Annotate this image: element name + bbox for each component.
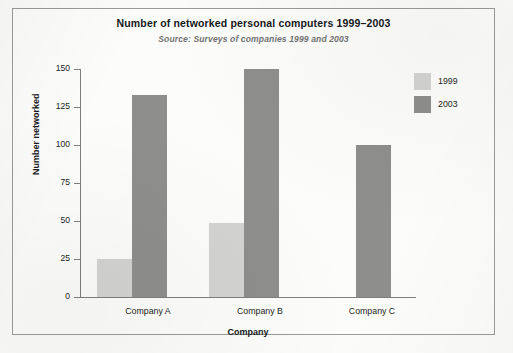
- bar-company-c-2003[interactable]: [356, 145, 391, 297]
- y-tick-50: 50: [74, 221, 80, 222]
- chart-title: Number of networked personal computers 1…: [13, 17, 494, 29]
- y-tick-0: 0: [74, 297, 80, 298]
- y-tick-25: 25: [74, 259, 80, 260]
- legend-swatch-2003-icon: [414, 96, 431, 113]
- plot-area: 150 125 100 75 50 25 0: [80, 61, 415, 289]
- x-axis-title: Company: [227, 327, 268, 337]
- y-tick-label-100: 100: [56, 139, 70, 149]
- legend-item-1999[interactable]: 1999: [414, 71, 458, 91]
- bar-company-a-1999[interactable]: [97, 259, 132, 297]
- legend-item-2003[interactable]: 2003: [414, 94, 458, 114]
- y-tick-label-0: 0: [65, 291, 70, 301]
- chart-frame: Number of networked personal computers 1…: [12, 8, 495, 335]
- bars-layer: [81, 69, 416, 297]
- x-tick-label-company-a: Company A: [125, 306, 170, 316]
- scanned-page: Number of networked personal computers 1…: [0, 0, 513, 353]
- y-tick-125: 125: [74, 107, 80, 108]
- legend-label-2003: 2003: [438, 99, 458, 109]
- bar-company-b-2003[interactable]: [244, 69, 279, 297]
- y-tick-label-50: 50: [60, 215, 70, 225]
- x-tick-label-company-c: Company C: [349, 306, 395, 316]
- y-tick-label-75: 75: [60, 177, 70, 187]
- chart-legend: 1999 2003: [414, 71, 458, 117]
- y-tick-label-25: 25: [60, 253, 70, 263]
- chart-subtitle: Source: Surveys of companies 1999 and 20…: [13, 34, 494, 44]
- y-tick-label-150: 150: [56, 63, 70, 73]
- y-tick-150: 150: [74, 69, 80, 70]
- y-tick-100: 100: [74, 145, 80, 146]
- y-axis-title: Number networked: [31, 93, 41, 175]
- legend-label-1999: 1999: [438, 76, 458, 86]
- legend-swatch-1999-icon: [414, 73, 431, 90]
- y-tick-75: 75: [74, 183, 80, 184]
- bar-company-b-1999[interactable]: [209, 223, 244, 297]
- x-axis-line: [80, 297, 416, 298]
- bar-company-a-2003[interactable]: [132, 95, 167, 297]
- x-tick-label-company-b: Company B: [237, 306, 283, 316]
- y-tick-label-125: 125: [56, 101, 70, 111]
